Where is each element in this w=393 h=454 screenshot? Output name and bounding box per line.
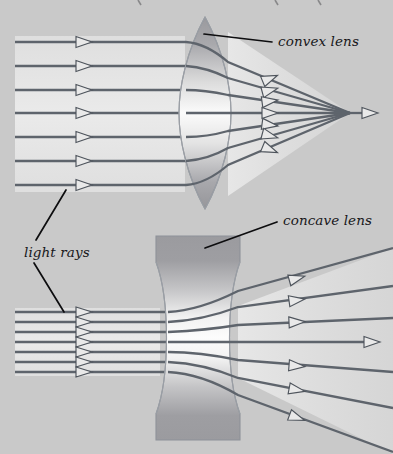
focal-point-arrowhead (362, 108, 378, 119)
convex-lens-diagram: convex lens (15, 17, 378, 209)
light-rays-leader-lower (34, 263, 64, 312)
concave-lens-label: concave lens (283, 212, 372, 228)
light-rays-callout: light rays (24, 190, 90, 312)
light-rays-leader-upper (36, 190, 66, 240)
lens-refraction-diagram: convex lens (0, 0, 393, 454)
convex-lens-label: convex lens (278, 33, 359, 49)
concave-lens-leader-line (205, 222, 277, 248)
ray-arrowhead (288, 410, 307, 426)
cropped-caption-remnant (138, 0, 321, 5)
concave-lens-shape (156, 236, 240, 440)
diagram-canvas: convex lens (0, 0, 393, 454)
light-rays-label: light rays (24, 244, 90, 260)
